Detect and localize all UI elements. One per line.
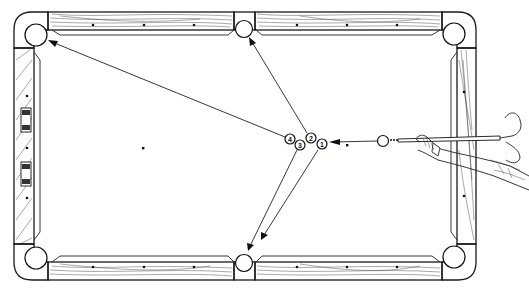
top-left-rail	[48, 12, 234, 35]
pocket-top-right	[442, 12, 476, 48]
ball-3: 3	[295, 140, 305, 150]
ball-2: 2	[306, 133, 316, 143]
pocket-bottom-right	[442, 244, 476, 280]
svg-text:3: 3	[298, 142, 302, 149]
svg-text:4: 4	[288, 136, 292, 143]
ball-paths	[48, 37, 377, 251]
pool-table-diagram: 1 2 3 4	[0, 0, 529, 293]
cue-stick	[390, 136, 500, 142]
ball-1: 1	[317, 139, 327, 149]
pocket-top-left	[14, 12, 48, 48]
pocket-top-side	[234, 12, 255, 38]
right-rail	[451, 48, 476, 244]
top-right-rail	[255, 12, 442, 35]
left-rail	[14, 48, 40, 244]
foot-spot	[346, 144, 348, 146]
pocket-bottom-side	[234, 255, 255, 281]
ball-4: 4	[285, 134, 295, 144]
pocket-bottom-left	[14, 244, 48, 280]
cue-ball	[378, 136, 389, 147]
bottom-right-rail	[255, 256, 442, 280]
bottom-left-rail	[48, 256, 234, 280]
table-svg: 1 2 3 4	[0, 0, 529, 293]
head-spot	[142, 147, 144, 149]
svg-text:1: 1	[320, 141, 324, 148]
svg-text:2: 2	[309, 135, 313, 142]
player-hand-and-arm	[416, 113, 529, 190]
